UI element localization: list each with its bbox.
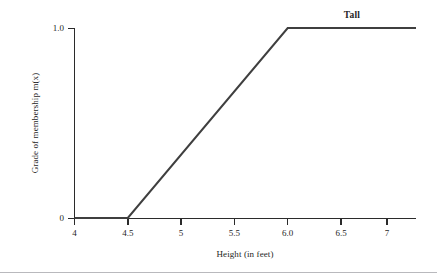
y-axis-title: Grade of membership m(x) [31, 73, 40, 174]
x-tick-label-5: 5 [179, 229, 184, 238]
y-tick-label-0: 0 [40, 214, 64, 223]
bottom-divider [0, 272, 437, 273]
x-tick-label-4: 4 [72, 229, 77, 238]
x-tick-label-6.0: 6.0 [282, 229, 293, 238]
series-label-tall: Tall [344, 11, 360, 21]
chart-figure: 1.0 0 4 4.5 5 5.5 6.0 6.5 7 Height (in f… [0, 0, 437, 280]
x-tick-label-4.5: 4.5 [122, 229, 133, 238]
membership-function-line [75, 28, 417, 218]
x-tick-label-7: 7 [385, 229, 390, 238]
x-axis-title: Height (in feet) [216, 250, 273, 259]
y-tick-label-1.0: 1.0 [40, 24, 64, 33]
x-tick-label-5.5: 5.5 [229, 229, 240, 238]
plot-canvas [0, 0, 437, 280]
x-tick-label-6.5: 6.5 [335, 229, 346, 238]
